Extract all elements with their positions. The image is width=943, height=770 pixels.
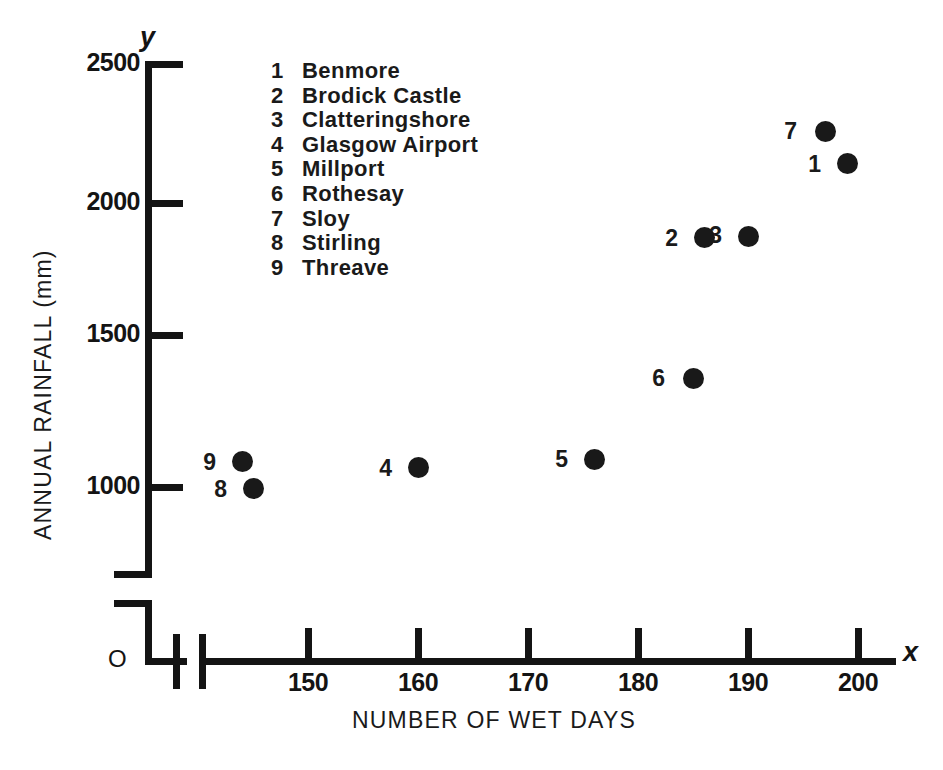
legend-item-key: 7: [271, 206, 302, 232]
legend-item: 3 Clatteringshore: [271, 107, 478, 132]
x-tick-label-180: 180: [578, 668, 698, 697]
data-point-6: [683, 368, 704, 389]
y-axis-line-lower: [145, 603, 152, 665]
legend-item-label: Sloy: [302, 206, 350, 232]
legend: 1 Benmore 2 Brodick Castle 3 Clatterings…: [271, 58, 478, 279]
data-point-5: [584, 449, 605, 470]
x-tick-170: [525, 628, 532, 658]
data-point-label-5: 5: [555, 446, 568, 473]
legend-item-label: Millport: [302, 156, 385, 182]
legend-item: 4 Glasgow Airport: [271, 132, 478, 157]
legend-item: 7 Sloy: [271, 206, 478, 231]
x-tick-200: [855, 628, 862, 658]
legend-item-key: 3: [271, 107, 302, 133]
y-axis-break-mark-lower: [114, 600, 152, 607]
x-tick-180: [635, 628, 642, 658]
legend-item-key: 8: [271, 230, 302, 256]
x-axis-break-mark-left: [173, 634, 180, 689]
x-tick-label-160: 160: [358, 668, 478, 697]
y-axis-break-mark-upper: [114, 571, 152, 578]
legend-item: 8 Stirling: [271, 230, 478, 255]
legend-item: 9 Threave: [271, 255, 478, 280]
x-tick-label-150: 150: [248, 668, 368, 697]
legend-item-key: 9: [271, 255, 302, 281]
data-point-1: [837, 153, 858, 174]
data-point-8: [243, 478, 264, 499]
y-axis-title: ANNUAL RAINFALL (mm): [30, 249, 57, 540]
legend-item-label: Threave: [302, 255, 389, 281]
y-axis-symbol: y: [140, 22, 155, 53]
y-tick-label-2500: 2500: [0, 48, 140, 77]
legend-item-key: 1: [271, 58, 302, 84]
legend-item: 6 Rothesay: [271, 181, 478, 206]
y-tick-1500: [152, 332, 183, 339]
data-point-label-2: 2: [665, 224, 678, 251]
legend-item-key: 5: [271, 156, 302, 182]
data-point-label-7: 7: [784, 118, 797, 145]
legend-item-label: Rothesay: [302, 181, 404, 207]
x-tick-label-190: 190: [688, 668, 808, 697]
legend-item-label: Stirling: [302, 230, 381, 256]
x-axis-title: NUMBER OF WET DAYS: [352, 707, 636, 734]
x-axis-break-mark-right: [199, 634, 206, 689]
x-tick-150: [305, 628, 312, 658]
x-tick-190: [745, 628, 752, 658]
legend-item-label: Glasgow Airport: [302, 132, 478, 158]
scatter-plot-figure: 2500 2000 1500 1000 y ANNUAL RAINFALL (m…: [0, 0, 943, 770]
legend-item-key: 4: [271, 132, 302, 158]
data-point-label-4: 4: [379, 454, 392, 481]
x-axis-symbol: x: [903, 637, 918, 668]
y-tick-label-1500: 1500: [0, 319, 140, 348]
x-tick-label-170: 170: [468, 668, 588, 697]
legend-item: 2 Brodick Castle: [271, 83, 478, 108]
data-point-7: [815, 121, 836, 142]
y-tick-2500: [152, 61, 183, 68]
origin-label: O: [108, 645, 127, 673]
legend-item-label: Brodick Castle: [302, 83, 462, 109]
legend-item: 1 Benmore: [271, 58, 478, 83]
data-point-9: [232, 451, 253, 472]
y-axis-line-upper: [145, 61, 152, 575]
y-tick-label-1000: 1000: [0, 471, 140, 500]
legend-item: 5 Millport: [271, 156, 478, 181]
legend-item-label: Clatteringshore: [302, 107, 471, 133]
data-point-4: [408, 457, 429, 478]
data-point-label-6: 6: [652, 365, 665, 392]
data-point-label-1: 1: [808, 150, 821, 177]
legend-item-key: 6: [271, 181, 302, 207]
y-tick-2000: [152, 200, 183, 207]
legend-item-key: 2: [271, 83, 302, 109]
x-tick-label-200: 200: [798, 668, 918, 697]
legend-item-label: Benmore: [302, 58, 400, 84]
data-point-label-3: 3: [709, 222, 722, 249]
data-point-3: [738, 226, 759, 247]
x-axis-line-left-stub: [145, 658, 187, 665]
data-point-label-8: 8: [214, 475, 227, 502]
x-tick-160: [415, 628, 422, 658]
x-axis-line-main: [199, 658, 896, 665]
y-tick-label-2000: 2000: [0, 187, 140, 216]
data-point-label-9: 9: [203, 448, 216, 475]
y-tick-1000: [152, 484, 183, 491]
